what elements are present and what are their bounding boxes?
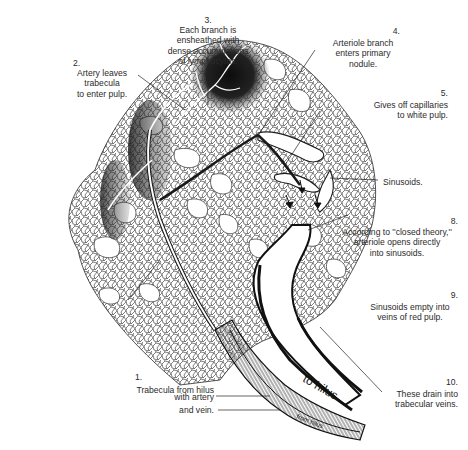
label-9-number: 9. bbox=[438, 290, 458, 300]
label-7-number: 5. bbox=[428, 88, 448, 98]
label-1-artery: with artery bbox=[150, 392, 214, 402]
label-5-text: Each branch is ensheathed with dense acc… bbox=[148, 25, 268, 67]
label-10-number: 10. bbox=[428, 377, 458, 387]
label-6-text: Arteriole branch enters primary nodule. bbox=[308, 38, 418, 69]
label-5-number: 3. bbox=[200, 15, 216, 25]
label-8-number: 8. bbox=[438, 216, 458, 226]
label-10-text: These drain into trabecular veins. bbox=[370, 389, 458, 410]
sinusoids-label: Sinusoids. bbox=[383, 177, 423, 187]
label-4-number: 2. bbox=[73, 58, 80, 68]
label-1-number: 1. bbox=[135, 372, 142, 382]
label-8-text: According to ''closed theory,'' arteriol… bbox=[332, 227, 462, 258]
label-7-text: Gives off capillaries to white pulp. bbox=[318, 100, 448, 121]
label-1-vein: and vein. bbox=[160, 405, 214, 415]
label-6-number: 4. bbox=[380, 26, 400, 36]
label-9-text: Sinusoids empty into veins of red pulp. bbox=[360, 302, 460, 323]
label-4-text: Artery leaves trabecula to enter pulp. bbox=[62, 68, 142, 99]
